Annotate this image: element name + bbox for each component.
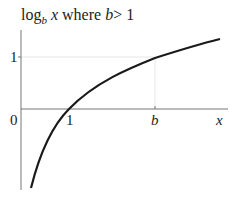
title-arg: x [51,6,58,23]
title-cond-var: b [105,6,113,23]
y-tick-label-1: 1 [10,50,18,65]
origin-label: 0 [10,113,18,128]
x-tick-label-b: b [151,113,159,128]
x-tick-label-1: 1 [66,113,74,128]
chart-title: logb x where b> 1 [21,7,134,26]
x-axis-label: x [216,113,223,128]
title-cond-rest: > 1 [113,6,134,23]
title-base: b [41,14,47,26]
title-func: log [21,6,41,23]
log-curve [31,39,220,188]
plot-area [0,0,236,197]
title-where: where [62,6,101,23]
